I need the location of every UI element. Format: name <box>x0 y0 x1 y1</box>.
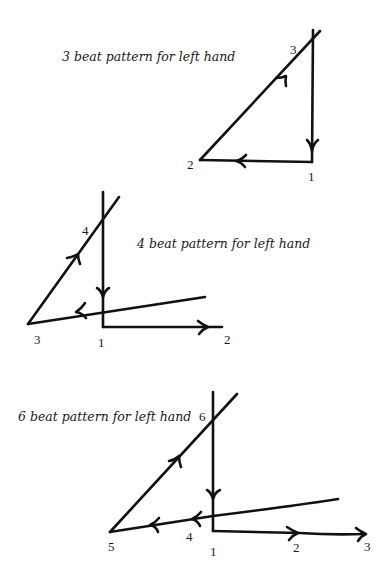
six-beat-stroke-1-to-3 <box>213 531 365 534</box>
four-beat-label-1: 1 <box>98 336 105 349</box>
four-beat-label-4: 4 <box>82 224 89 237</box>
six-beat-label-1: 1 <box>210 545 217 558</box>
three-beat-label-1: 1 <box>308 170 315 183</box>
four-beat-caption: 4 beat pattern for left hand <box>137 236 310 251</box>
six-beat-caption: 6 beat pattern for left hand <box>18 409 191 424</box>
three-beat-label-2: 2 <box>187 158 194 171</box>
three-beat-stroke-1-to-2 <box>200 160 312 162</box>
six-beat-label-4: 4 <box>186 530 193 543</box>
arrow-up-right-icon <box>276 76 286 86</box>
three-beat-downstroke <box>312 30 313 162</box>
four-beat-label-2: 2 <box>224 333 231 346</box>
six-beat-label-3: 3 <box>364 540 371 553</box>
four-beat-label-3: 3 <box>34 333 41 346</box>
six-beat-stroke-3-to-5 <box>110 499 338 532</box>
six-beat-label-2: 2 <box>293 541 300 554</box>
conducting-patterns-page: 3 beat pattern for left hand 4 beat patt… <box>0 0 391 577</box>
six-beat-label-5: 5 <box>108 540 115 553</box>
patterns-drawing <box>0 0 391 577</box>
four-beat-stroke-3-to-4 <box>28 197 119 324</box>
six-beat-label-6: 6 <box>199 410 206 423</box>
three-beat-label-3: 3 <box>290 43 297 56</box>
four-beat-pattern <box>28 192 222 334</box>
four-beat-stroke-2-to-3 <box>28 297 205 324</box>
three-beat-caption: 3 beat pattern for left hand <box>62 49 235 64</box>
